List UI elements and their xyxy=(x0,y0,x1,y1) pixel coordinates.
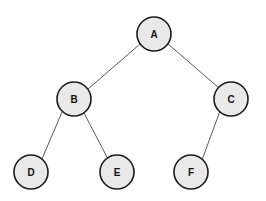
tree-node-e[interactable]: E xyxy=(100,155,134,189)
binary-tree-diagram: A B C D E F xyxy=(0,0,266,201)
tree-node-d[interactable]: D xyxy=(14,155,48,189)
node-label-b: B xyxy=(70,94,77,105)
tree-node-b[interactable]: B xyxy=(57,82,91,116)
node-label-c: C xyxy=(227,94,234,105)
node-label-a: A xyxy=(150,29,157,40)
node-label-f: F xyxy=(188,167,194,178)
node-label-e: E xyxy=(114,167,121,178)
tree-node-a[interactable]: A xyxy=(137,17,171,51)
tree-node-f[interactable]: F xyxy=(174,155,208,189)
tree-node-c[interactable]: C xyxy=(214,82,248,116)
node-label-d: D xyxy=(27,167,34,178)
